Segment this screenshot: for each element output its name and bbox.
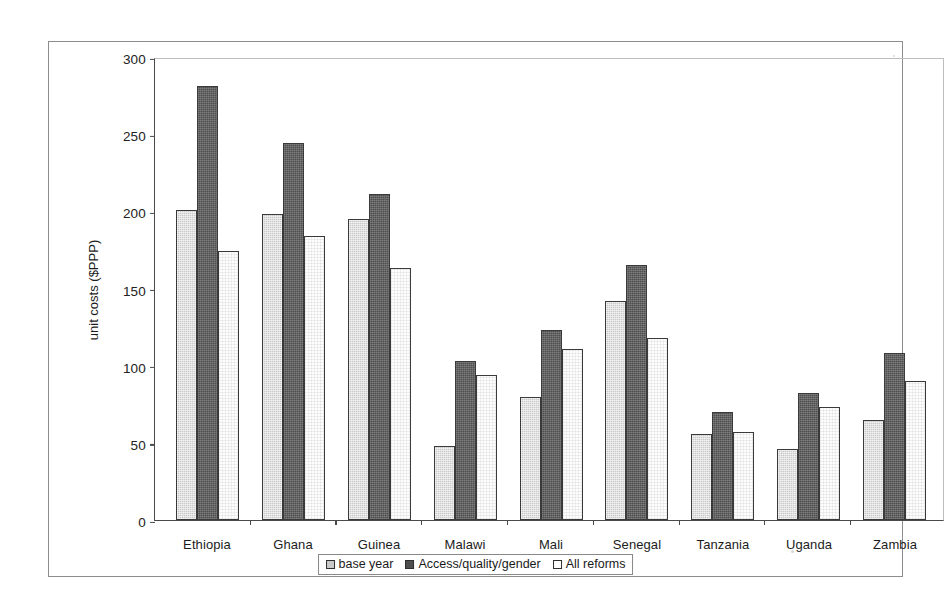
bar[interactable] — [777, 449, 798, 520]
bar[interactable] — [176, 210, 197, 520]
legend-item[interactable]: base year — [326, 557, 394, 571]
bar-groups — [155, 59, 943, 520]
bar-group — [422, 59, 508, 520]
x-axis-label: Mali — [508, 537, 594, 552]
bar[interactable] — [455, 361, 476, 520]
x-axis-label: Tanzania — [680, 537, 766, 552]
x-axis-label: Guinea — [336, 537, 422, 552]
chart-legend: base yearAccess/quality/genderAll reform… — [318, 554, 634, 575]
bar[interactable] — [520, 397, 541, 520]
plot-area: unit costs ($PPP) 050100150200250300 — [154, 58, 944, 521]
y-tick-label: 50 — [131, 437, 155, 452]
y-tick-label: 0 — [138, 515, 155, 530]
y-tick-label: 250 — [123, 129, 155, 144]
bar-group — [680, 59, 766, 520]
bar-group — [851, 59, 937, 520]
bar[interactable] — [562, 349, 583, 520]
bar-group — [594, 59, 680, 520]
y-axis-title: unit costs ($PPP) — [86, 239, 101, 339]
bar[interactable] — [218, 251, 239, 520]
y-tick-label: 100 — [123, 360, 155, 375]
scan-speck — [893, 55, 895, 57]
bar[interactable] — [390, 268, 411, 520]
x-axis-labels: EthiopiaGhanaGuineaMalawiMaliSenegalTanz… — [154, 537, 944, 552]
legend-label: All reforms — [566, 557, 626, 571]
bar[interactable] — [283, 143, 304, 520]
legend-label: Access/quality/gender — [418, 557, 540, 571]
legend-swatch-icon — [405, 560, 414, 569]
bar[interactable] — [476, 375, 497, 520]
x-axis-label: Ghana — [250, 537, 336, 552]
legend-item[interactable]: Access/quality/gender — [405, 557, 540, 571]
y-tick-label: 300 — [123, 52, 155, 67]
legend-swatch-icon — [553, 560, 562, 569]
bar[interactable] — [605, 301, 626, 520]
bar[interactable] — [798, 393, 819, 520]
bar[interactable] — [197, 86, 218, 520]
bar[interactable] — [304, 236, 325, 520]
bar[interactable] — [348, 219, 369, 520]
bar[interactable] — [863, 420, 884, 520]
bar[interactable] — [626, 265, 647, 520]
bar[interactable] — [434, 446, 455, 520]
bar[interactable] — [819, 407, 840, 520]
bar-group — [337, 59, 423, 520]
bar-group — [765, 59, 851, 520]
bar-group — [508, 59, 594, 520]
y-tick-label: 150 — [123, 283, 155, 298]
bar-group — [165, 59, 251, 520]
y-tick-label: 200 — [123, 206, 155, 221]
x-axis-label: Ethiopia — [164, 537, 250, 552]
chart-frame: unit costs ($PPP) 050100150200250300 Eth… — [48, 41, 903, 577]
bar[interactable] — [541, 330, 562, 520]
scan-speck — [791, 550, 794, 553]
bar-group — [251, 59, 337, 520]
bar[interactable] — [369, 194, 390, 520]
bar[interactable] — [691, 434, 712, 520]
bar[interactable] — [262, 214, 283, 520]
bar[interactable] — [884, 353, 905, 520]
legend-label: base year — [339, 557, 394, 571]
x-axis-label: Zambia — [852, 537, 938, 552]
legend-swatch-icon — [326, 560, 335, 569]
x-axis-label: Senegal — [594, 537, 680, 552]
x-axis-label: Uganda — [766, 537, 852, 552]
bar[interactable] — [647, 338, 668, 520]
bar[interactable] — [905, 381, 926, 520]
bar[interactable] — [733, 432, 754, 520]
x-axis-label: Malawi — [422, 537, 508, 552]
legend-item[interactable]: All reforms — [553, 557, 626, 571]
bar[interactable] — [712, 412, 733, 520]
